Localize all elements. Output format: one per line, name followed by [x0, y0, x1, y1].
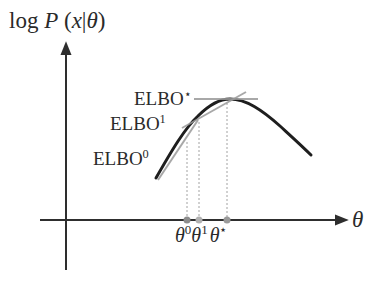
y-axis-label: log P (x|θ)	[9, 8, 105, 34]
elbo-sup: 1	[160, 112, 166, 126]
elbo-star-label: ELBO⋆	[134, 88, 192, 110]
open-paren: (	[58, 8, 71, 33]
log-likelihood-curve	[156, 99, 311, 178]
theta0-base: θ	[175, 224, 185, 246]
elbo-0-label: ELBO0	[93, 148, 149, 170]
theta-text: θ	[86, 8, 97, 33]
thetastar-base: θ	[210, 224, 220, 246]
elbo-base: ELBO	[134, 88, 184, 109]
theta-ticks: θ0θ1θ⋆	[175, 224, 227, 247]
x-axis-label: θ	[352, 207, 363, 233]
log-text: log	[9, 8, 44, 33]
theta1-sup: 1	[201, 222, 208, 237]
elbo-sup: ⋆	[184, 87, 192, 101]
x-text: x	[72, 8, 82, 33]
p-text: P	[44, 8, 58, 33]
thetastar-sup: ⋆	[219, 222, 227, 237]
elbo-base: ELBO	[110, 113, 160, 134]
elbo-base: ELBO	[93, 148, 143, 169]
elbo-sup: 0	[143, 147, 149, 161]
theta1-base: θ	[191, 224, 201, 246]
elbo-1-label: ELBO1	[110, 113, 166, 135]
close-paren: )	[98, 8, 106, 33]
